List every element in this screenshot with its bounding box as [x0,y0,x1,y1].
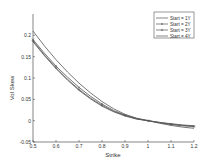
y-tick-label: -0.05 [20,139,32,145]
series-line-3 [33,41,194,126]
y-tick-label: 0 [28,118,31,124]
x-tick-label: 0.9 [122,143,129,149]
legend-label: Start = 1Y [170,16,191,21]
series-line-4 [33,42,194,126]
x-tick-label: 0.8 [99,143,106,149]
legend-label: Start = 4Y [170,34,191,39]
legend-label: Start = 2Y [170,22,191,27]
y-tick-label: 0.1 [24,75,31,81]
y-tick-label: 0.05 [21,96,31,102]
x-axis-label: Strike [105,152,121,158]
y-axis-label: Vol Skew [9,75,15,100]
y-tick-label: 0.15 [21,54,31,60]
legend: Start = 1YStart = 2YStart = 3YStart = 4Y [154,12,194,39]
x-tick-label: 1.2 [191,143,198,149]
series-line-2 [33,40,194,127]
x-tick-label: 0.6 [53,143,60,149]
y-tick-label: 0.2 [24,32,31,38]
legend-label: Start = 3Y [170,28,191,33]
x-tick-label: 1.1 [168,143,175,149]
series-line-1 [33,31,194,128]
vol-skew-chart: 0.50.60.70.80.911.11.2-0.0500.050.10.150… [0,0,208,163]
x-tick-label: 1 [147,143,150,149]
plot-area [32,31,195,128]
x-tick-label: 0.7 [76,143,83,149]
